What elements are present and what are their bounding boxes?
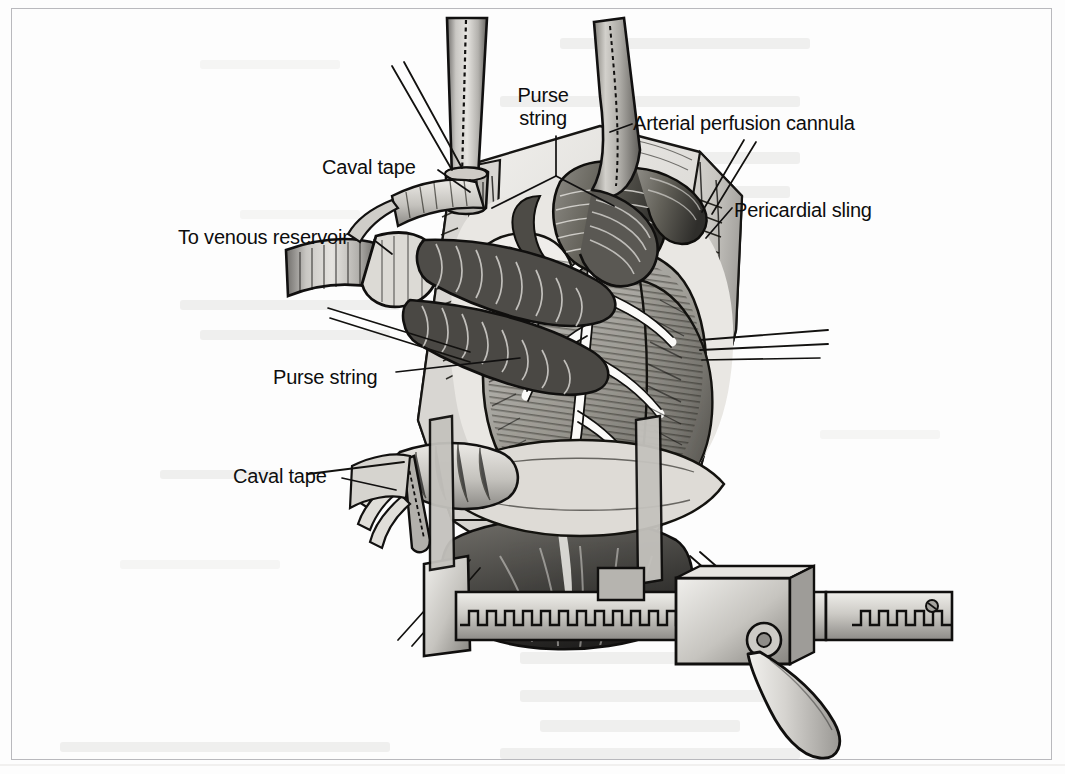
label-caval-tape-top: Caval tape [322, 156, 416, 179]
label-pericardial-sling: Pericardial sling [734, 199, 872, 222]
label-to-venous-reservoir: To venous reservoir [178, 226, 349, 249]
label-caval-tape-lower: Caval tape [233, 465, 327, 488]
figure-page: Purse string Arterial perfusion cannula … [0, 0, 1065, 774]
label-arterial-perfusion-cannula: Arterial perfusion cannula [633, 112, 855, 135]
label-purse-string-lower: Purse string [273, 366, 377, 389]
label-purse-string-top: Purse string [505, 84, 581, 130]
